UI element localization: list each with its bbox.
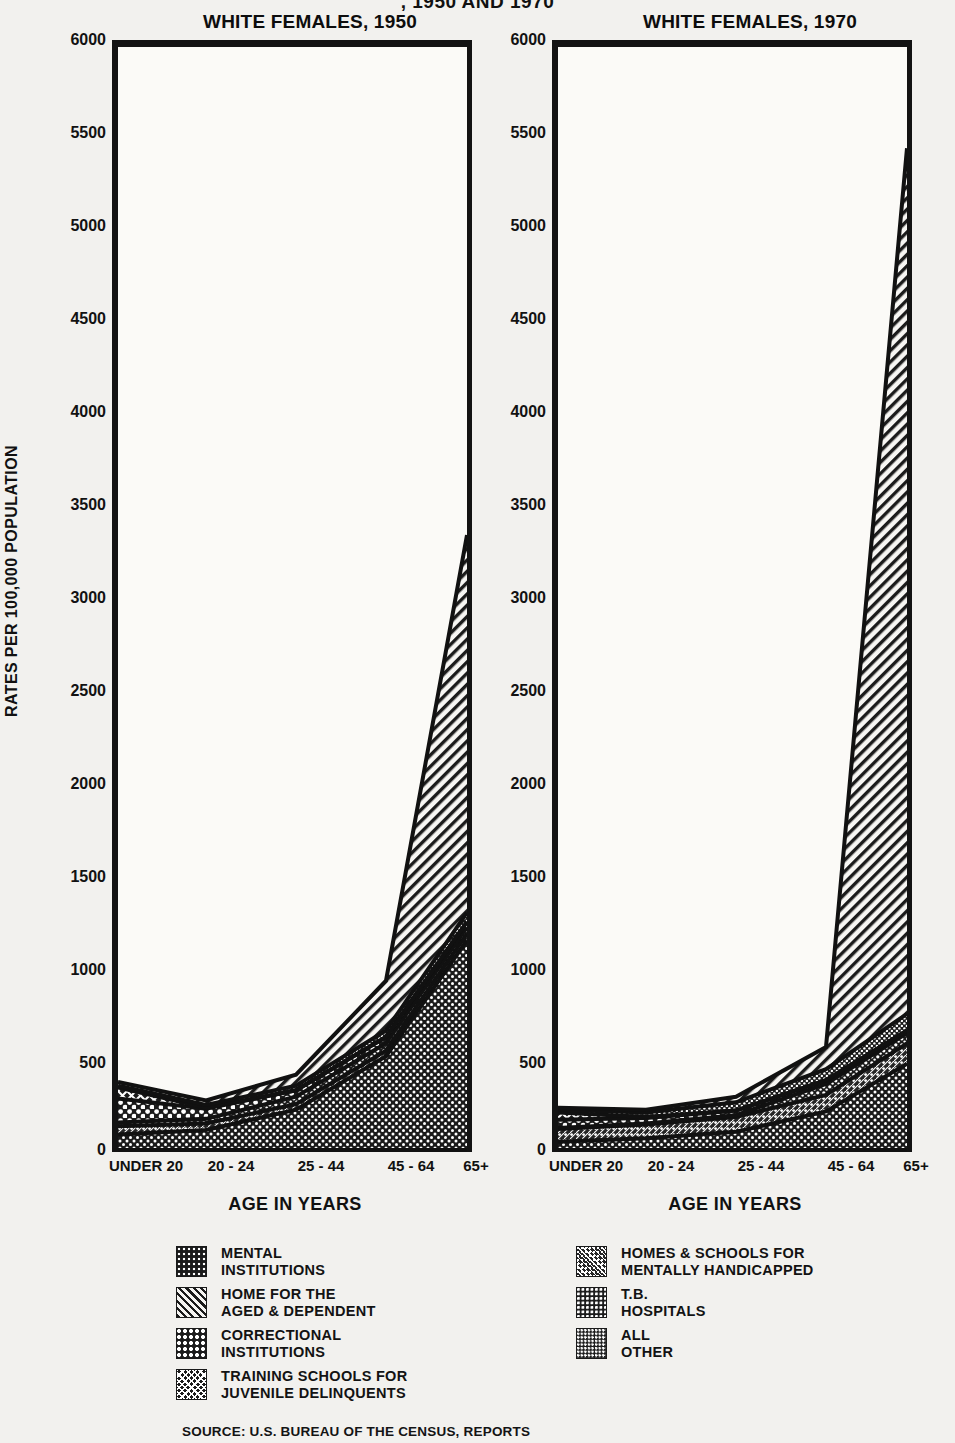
y-tick-label-right-5000: 5000 <box>484 217 546 235</box>
legend-swatch-correctional <box>176 1328 207 1359</box>
legend-swatch-tb <box>576 1287 607 1318</box>
y-tick-label-left-6000: 6000 <box>44 31 106 49</box>
y-tick-label-right-4000: 4000 <box>484 403 546 421</box>
chart-page: , 1950 AND 1970 WHITE FEMALES, 1950 WHIT… <box>0 0 955 1443</box>
x-tick-label-1970-3: 45 - 64 <box>806 1157 896 1174</box>
legend-item-mental[interactable]: MENTAL INSTITUTIONS <box>176 1245 407 1279</box>
x-tick-label-1950-1: 20 - 24 <box>186 1157 276 1174</box>
x-axis-caption-1970: AGE IN YEARS <box>552 1194 918 1215</box>
legend-swatch-handicapped <box>576 1246 607 1277</box>
y-tick-label-left-4000: 4000 <box>44 403 106 421</box>
x-tick-label-1950-4: 65+ <box>450 1157 502 1174</box>
legend-item-handicapped[interactable]: HOMES & SCHOOLS FOR MENTALLY HANDICAPPED <box>576 1245 814 1279</box>
legend-swatch-mental <box>176 1246 207 1277</box>
y-tick-label-left-2000: 2000 <box>44 775 106 793</box>
legend-item-aged[interactable]: HOME FOR THE AGED & DEPENDENT <box>176 1286 407 1320</box>
panel-title-1950: WHITE FEMALES, 1950 <box>130 11 490 33</box>
legend-label-training: TRAINING SCHOOLS FOR JUVENILE DELINQUENT… <box>221 1368 407 1402</box>
y-tick-label-right-1000: 1000 <box>484 961 546 979</box>
y-tick-label-right-5500: 5500 <box>484 124 546 142</box>
legend-label-handicapped: HOMES & SCHOOLS FOR MENTALLY HANDICAPPED <box>621 1245 814 1279</box>
x-tick-label-1950-2: 25 - 44 <box>276 1157 366 1174</box>
x-tick-label-1970-4: 65+ <box>890 1157 942 1174</box>
legend-swatch-aged <box>176 1287 207 1318</box>
legend-item-correctional[interactable]: CORRECTIONAL INSTITUTIONS <box>176 1327 407 1361</box>
y-tick-label-right-2000: 2000 <box>484 775 546 793</box>
plot-inner-1950 <box>118 47 467 1152</box>
x-tick-label-1970-1: 20 - 24 <box>626 1157 716 1174</box>
legend-label-correctional: CORRECTIONAL INSTITUTIONS <box>221 1327 341 1361</box>
area-chart-svg-1950 <box>118 47 467 1152</box>
plot-area-1950 <box>112 40 472 1152</box>
x-axis-caption-1950: AGE IN YEARS <box>112 1194 478 1215</box>
y-tick-label-right-500: 500 <box>484 1054 546 1072</box>
y-tick-label-right-2500: 2500 <box>484 682 546 700</box>
x-tick-label-1970-0: UNDER 20 <box>538 1157 634 1174</box>
legend-swatch-training <box>176 1369 207 1400</box>
legend-label-mental: MENTAL INSTITUTIONS <box>221 1245 325 1279</box>
x-tick-label-1950-3: 45 - 64 <box>366 1157 456 1174</box>
legend-item-tb[interactable]: T.B. HOSPITALS <box>576 1286 814 1320</box>
y-tick-label-left-4500: 4500 <box>44 310 106 328</box>
y-tick-label-left-0: 0 <box>44 1141 106 1159</box>
legend-column-right: HOMES & SCHOOLS FOR MENTALLY HANDICAPPED… <box>576 1245 814 1368</box>
legend-item-allother[interactable]: ALL OTHER <box>576 1327 814 1361</box>
y-tick-label-left-3500: 3500 <box>44 496 106 514</box>
y-tick-label-right-6000: 6000 <box>484 31 546 49</box>
legend-item-training[interactable]: TRAINING SCHOOLS FOR JUVENILE DELINQUENT… <box>176 1368 407 1402</box>
legend-label-aged: HOME FOR THE AGED & DEPENDENT <box>221 1286 376 1320</box>
area-chart-svg-1970 <box>558 47 907 1152</box>
y-tick-label-left-2500: 2500 <box>44 682 106 700</box>
y-tick-label-left-1000: 1000 <box>44 961 106 979</box>
panel-title-1970: WHITE FEMALES, 1970 <box>570 11 930 33</box>
legend-swatch-allother <box>576 1328 607 1359</box>
x-tick-label-1950-0: UNDER 20 <box>98 1157 194 1174</box>
y-tick-label-left-5000: 5000 <box>44 217 106 235</box>
plot-area-1970 <box>552 40 912 1152</box>
legend-label-allother: ALL OTHER <box>621 1327 673 1361</box>
y-tick-label-right-3000: 3000 <box>484 589 546 607</box>
plot-inner-1970 <box>558 47 907 1152</box>
y-tick-label-right-1500: 1500 <box>484 868 546 886</box>
y-tick-label-left-5500: 5500 <box>44 124 106 142</box>
source-note: SOURCE: U.S. BUREAU OF THE CENSUS, REPOR… <box>182 1424 530 1439</box>
y-tick-label-right-4500: 4500 <box>484 310 546 328</box>
legend-label-tb: T.B. HOSPITALS <box>621 1286 706 1320</box>
y-tick-label-left-500: 500 <box>44 1054 106 1072</box>
x-tick-label-1970-2: 25 - 44 <box>716 1157 806 1174</box>
area-band-home-for-aged-and-dependent-r <box>558 148 907 1112</box>
y-tick-label-left-1500: 1500 <box>44 868 106 886</box>
legend-column-left: MENTAL INSTITUTIONSHOME FOR THE AGED & D… <box>176 1245 407 1409</box>
y-axis-title: RATES PER 100,000 POPULATION <box>3 371 21 791</box>
y-tick-label-left-3000: 3000 <box>44 589 106 607</box>
y-tick-label-right-3500: 3500 <box>484 496 546 514</box>
